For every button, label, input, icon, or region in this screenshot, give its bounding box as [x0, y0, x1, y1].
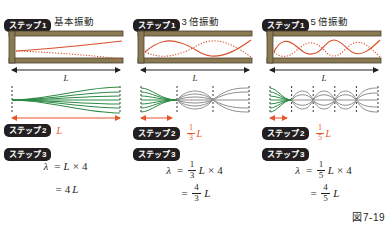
times-sign: × — [73, 160, 79, 172]
step2-measure-arrow-fifth-harmonic — [266, 112, 290, 124]
length-arrow-fifth-harmonic: L — [266, 66, 382, 84]
step2-value-fundamental: L — [56, 125, 62, 136]
step-badge-text: ステップ — [9, 126, 41, 135]
fraction: 1 3 — [188, 160, 197, 180]
figure-number: 図7-19 — [352, 209, 385, 224]
fraction: 4 5 — [321, 183, 330, 203]
fraction-denominator: 3 — [192, 193, 201, 204]
length-symbol: L — [64, 160, 70, 172]
column-third-harmonic: ステップ1 3 倍振動 — [131, 0, 258, 205]
step-badge: ステップ2 — [262, 127, 309, 140]
step2-row-fifth-harmonic: ステップ2 1 5 L — [262, 124, 331, 142]
column-fundamental: ステップ1 基本振動 — [2, 0, 129, 205]
length-symbol: L — [204, 187, 210, 199]
step3-row-third-harmonic: ステップ3 — [133, 143, 180, 161]
fraction-numerator: 4 — [192, 183, 201, 193]
fraction-denominator: 5 — [317, 170, 326, 181]
step-badge-text: ステップ — [138, 150, 170, 159]
step-badge-text: ステップ — [9, 150, 41, 159]
step-badge: ステップ2 — [4, 124, 51, 137]
length-label-fundamental: L — [8, 73, 124, 83]
step-badge-number: 2 — [299, 129, 304, 138]
fraction-numerator: 1 — [188, 160, 197, 170]
coefficient-value: 4 — [65, 183, 71, 195]
fraction-denominator: 3 — [187, 133, 195, 143]
fraction-denominator: 3 — [188, 170, 197, 181]
fraction: 1 5 — [317, 160, 326, 180]
step-badge-number: 2 — [41, 126, 46, 135]
column-fifth-harmonic: ステップ1 5 倍振動 — [260, 0, 387, 205]
step-badge-text: ステップ — [267, 129, 299, 138]
step-badge-number: 3 — [299, 150, 304, 159]
subtitle-fundamental: 基本振動 — [10, 16, 137, 28]
step2-row-fundamental: ステップ2 L — [4, 124, 62, 137]
length-symbol: L — [333, 187, 339, 199]
lambda-symbol: λ — [44, 160, 49, 172]
equals-sign: = — [54, 160, 60, 172]
fraction: 1 5 — [316, 124, 324, 142]
step3-equation-line1-third-harmonic: λ = 1 3 L × 4 — [131, 160, 258, 180]
lambda-symbol: λ — [295, 164, 300, 176]
factor-value: 4 — [82, 160, 88, 172]
length-label-fifth-harmonic: L — [266, 73, 382, 83]
standing-wave-fundamental — [8, 85, 124, 115]
fraction: 1 3 — [187, 124, 195, 142]
length-symbol: L — [199, 164, 205, 176]
equals-sign: = — [56, 183, 62, 195]
figure-root: ステップ1 基本振動 — [0, 0, 391, 227]
step3-row-fifth-harmonic: ステップ3 — [262, 143, 309, 161]
step2-length-symbol: L — [325, 128, 331, 139]
fraction-numerator: 4 — [321, 183, 330, 193]
step3-equation-line1-fundamental: λ = L × 4 — [2, 160, 129, 172]
tube-diagram-fifth-harmonic — [266, 30, 382, 64]
fraction-numerator: 1 — [317, 160, 326, 170]
equals-sign: = — [177, 164, 183, 176]
subtitle-third-harmonic: 3 倍振動 — [137, 16, 264, 28]
step-badge-number: 2 — [170, 129, 175, 138]
fraction: 4 3 — [192, 183, 201, 203]
subtitle-fifth-harmonic: 5 倍振動 — [266, 16, 391, 28]
times-sign: × — [208, 164, 214, 176]
length-arrow-fundamental: L — [8, 66, 124, 84]
factor-value: 4 — [346, 164, 352, 176]
step-badge-text: ステップ — [138, 129, 170, 138]
fraction-numerator: 1 — [316, 124, 324, 133]
step-badge-number: 3 — [170, 150, 175, 159]
times-sign: × — [337, 164, 343, 176]
tube-diagram-third-harmonic — [137, 30, 253, 64]
step2-measure-arrow-third-harmonic — [137, 112, 176, 124]
standing-wave-fifth-harmonic — [266, 85, 382, 115]
step-badge-text: ステップ — [267, 150, 299, 159]
step2-value-fifth-harmonic: 1 5 L — [314, 124, 331, 142]
step3-equation-line2-fifth-harmonic: = 4 5 L — [260, 183, 387, 203]
standing-wave-third-harmonic — [137, 85, 253, 115]
length-label-third-harmonic: L — [137, 73, 253, 83]
equals-sign: = — [182, 187, 188, 199]
fraction-numerator: 1 — [187, 124, 195, 133]
equals-sign: = — [311, 187, 317, 199]
step3-equation-line1-fifth-harmonic: λ = 1 5 L × 4 — [260, 160, 387, 180]
factor-value: 4 — [217, 164, 223, 176]
tube-diagram-fundamental — [8, 30, 124, 64]
step3-equation-line2-fundamental: = 4 L — [2, 183, 129, 195]
step2-length-symbol: L — [56, 125, 62, 136]
length-arrow-third-harmonic: L — [137, 66, 253, 84]
step3-equation-line2-third-harmonic: = 4 3 L — [131, 183, 258, 203]
fraction-denominator: 5 — [316, 133, 324, 143]
step2-length-symbol: L — [196, 128, 202, 139]
equals-sign: = — [306, 164, 312, 176]
fraction-denominator: 5 — [321, 193, 330, 204]
step2-measure-arrow-fundamental — [8, 112, 124, 124]
step2-row-third-harmonic: ステップ2 1 3 L — [133, 124, 202, 142]
step-badge-number: 3 — [41, 150, 46, 159]
step3-row-fundamental: ステップ3 — [4, 143, 51, 161]
step-badge: ステップ2 — [133, 127, 180, 140]
lambda-symbol: λ — [166, 164, 171, 176]
step2-value-third-harmonic: 1 3 L — [185, 124, 202, 142]
length-symbol: L — [72, 183, 78, 195]
length-symbol: L — [328, 164, 334, 176]
